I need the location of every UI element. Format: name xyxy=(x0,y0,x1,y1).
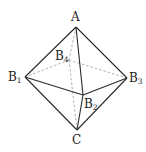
octahedron-diagram: A B4 B1 B3 B2 C xyxy=(0,0,146,152)
edges xyxy=(25,27,127,130)
vertex-label-a: A xyxy=(70,10,80,24)
edge-b4-c xyxy=(69,60,77,130)
vertex-label-b1: B1 xyxy=(8,70,22,85)
edge-a-b2 xyxy=(76,27,83,95)
vertex-label-b3: B3 xyxy=(129,71,143,86)
vertex-label-b4: B4 xyxy=(55,49,69,64)
edge-b2-b3 xyxy=(83,78,127,95)
vertex-label-c: C xyxy=(72,133,81,147)
edge-a-b3 xyxy=(76,27,127,78)
edge-a-b4 xyxy=(69,27,76,60)
vertex-label-b2: B2 xyxy=(84,97,98,112)
edge-a-b1 xyxy=(25,27,76,77)
